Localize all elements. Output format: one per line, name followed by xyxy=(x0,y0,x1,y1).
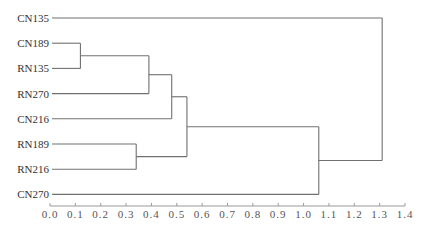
x-tick-label: 0.5 xyxy=(168,208,185,220)
x-tick-label: 1.1 xyxy=(321,208,338,220)
x-tick-label: 0.6 xyxy=(194,208,211,220)
x-axis: 0.00.10.20.30.40.50.60.70.80.91.01.11.21… xyxy=(42,203,414,220)
x-tick-label: 0.0 xyxy=(42,208,59,220)
x-tick-label: 0.8 xyxy=(244,208,261,220)
x-tick-label: 0.3 xyxy=(118,208,135,220)
dendrogram-chart: CN135CN189RN135RN270CN216RN189RN216CN270… xyxy=(0,0,429,234)
leaf-label: RN189 xyxy=(17,138,49,150)
leaf-label: RN270 xyxy=(17,88,49,100)
x-tick-label: 1.2 xyxy=(346,208,363,220)
dendrogram-branches xyxy=(52,18,382,194)
leaf-label: CN216 xyxy=(17,113,49,125)
leaf-label: CN189 xyxy=(17,37,49,49)
x-tick-label: 0.7 xyxy=(219,208,236,220)
x-tick-label: 1.0 xyxy=(295,208,312,220)
x-tick-label: 0.9 xyxy=(270,208,287,220)
x-tick-label: 1.4 xyxy=(397,208,414,220)
x-tick-label: 1.3 xyxy=(371,208,388,220)
leaf-label: RN216 xyxy=(17,163,49,175)
leaf-label: RN135 xyxy=(17,62,49,74)
x-tick-label: 0.1 xyxy=(67,208,84,220)
leaf-labels: CN135CN189RN135RN270CN216RN189RN216CN270 xyxy=(17,12,49,200)
leaf-label: CN270 xyxy=(17,188,49,200)
leaf-label: CN135 xyxy=(17,12,49,24)
x-tick-label: 0.2 xyxy=(92,208,109,220)
x-tick-label: 0.4 xyxy=(143,208,160,220)
